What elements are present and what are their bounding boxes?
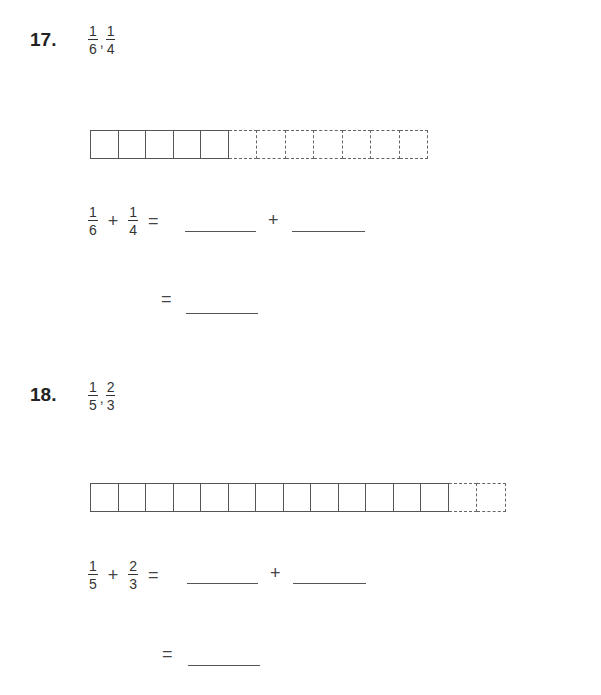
dashed-box bbox=[314, 130, 343, 159]
solid-box bbox=[90, 483, 119, 512]
solid-box bbox=[420, 483, 449, 512]
solid-box bbox=[255, 483, 284, 512]
fraction: 14 bbox=[128, 205, 138, 237]
separator: , bbox=[100, 34, 104, 50]
fraction: 14 bbox=[106, 24, 116, 56]
dashed-box bbox=[286, 130, 315, 159]
solid-box bbox=[283, 483, 312, 512]
fraction: 23 bbox=[106, 380, 116, 412]
answer-blank[interactable] bbox=[186, 313, 258, 314]
solid-box bbox=[118, 130, 147, 159]
fraction: 15 bbox=[88, 380, 98, 412]
solid-box bbox=[90, 130, 119, 159]
solid-box bbox=[200, 130, 229, 159]
problem-17-given-fractions: 16 , 14 bbox=[88, 24, 115, 56]
dashed-box bbox=[477, 483, 506, 512]
plus-sign: + bbox=[108, 211, 119, 232]
equals-sign: = bbox=[162, 644, 173, 665]
plus-sign: + bbox=[270, 563, 281, 584]
answer-blank[interactable] bbox=[292, 231, 365, 232]
solid-box bbox=[173, 130, 202, 159]
fraction: 16 bbox=[88, 205, 98, 237]
problem-17-equation: 16 + 14 = bbox=[88, 205, 159, 237]
answer-blank[interactable] bbox=[187, 583, 258, 584]
fraction: 16 bbox=[88, 24, 98, 56]
dashed-box bbox=[257, 130, 286, 159]
plus-sign: + bbox=[268, 210, 279, 231]
solid-box bbox=[118, 483, 147, 512]
equals-sign: = bbox=[148, 565, 159, 586]
equals-sign: = bbox=[161, 289, 172, 310]
solid-box bbox=[145, 483, 174, 512]
dashed-box bbox=[449, 483, 478, 512]
fraction: 23 bbox=[128, 559, 138, 591]
plus-sign: + bbox=[108, 565, 119, 586]
answer-blank[interactable] bbox=[188, 665, 260, 666]
separator: , bbox=[100, 390, 104, 406]
fraction: 15 bbox=[88, 559, 98, 591]
problem-18-given-fractions: 15 , 23 bbox=[88, 380, 115, 412]
dashed-box bbox=[343, 130, 372, 159]
solid-box bbox=[200, 483, 229, 512]
problem-17-fraction-bar bbox=[90, 130, 428, 159]
problem-18-number: 18. bbox=[30, 384, 56, 406]
solid-box bbox=[338, 483, 367, 512]
solid-box bbox=[393, 483, 422, 512]
solid-box bbox=[310, 483, 339, 512]
equals-sign: = bbox=[148, 211, 159, 232]
problem-18-equation: 15 + 23 = bbox=[88, 559, 159, 591]
solid-box bbox=[145, 130, 174, 159]
problem-18-fraction-bar bbox=[90, 483, 506, 512]
solid-box bbox=[173, 483, 202, 512]
solid-box bbox=[365, 483, 394, 512]
answer-blank[interactable] bbox=[293, 583, 366, 584]
answer-blank[interactable] bbox=[185, 231, 256, 232]
problem-17-number: 17. bbox=[30, 29, 56, 51]
dashed-box bbox=[371, 130, 400, 159]
solid-box bbox=[228, 483, 257, 512]
dashed-box bbox=[229, 130, 258, 159]
dashed-box bbox=[400, 130, 429, 159]
